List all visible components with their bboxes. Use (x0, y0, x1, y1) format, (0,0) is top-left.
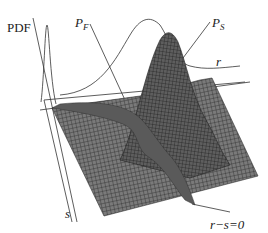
ps-label: PS (212, 16, 224, 32)
surface-plot (0, 0, 268, 233)
limit-state-line (192, 204, 230, 212)
s-axis-label: s (65, 207, 70, 220)
pf-sub: F (83, 22, 89, 32)
ps-main: P (212, 15, 220, 30)
limit-state-label: r−s=0 (210, 218, 244, 231)
pf-leader (90, 24, 125, 100)
ps-leader (183, 22, 210, 58)
pdf-axis-label: PDF (7, 21, 31, 34)
ps-sub: S (220, 22, 225, 32)
r-axis-label: r (216, 55, 221, 68)
pf-label: PF (75, 16, 88, 32)
joint-pdf-figure: PDF PF PS r s r−s=0 (0, 0, 268, 233)
pf-main: P (75, 15, 83, 30)
